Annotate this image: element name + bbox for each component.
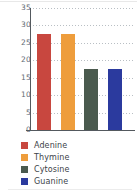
chart-figure: 35302520151050 AdenineThymineCytosineGua… — [0, 0, 137, 193]
legend-item-label: Cytosine — [34, 164, 70, 175]
gridline — [30, 25, 134, 26]
plot-area: 35302520151050 — [0, 0, 137, 134]
legend-item-label: Adenine — [34, 140, 67, 151]
bar — [61, 34, 75, 130]
legend-item-guanine[interactable]: Guanine — [21, 175, 133, 187]
x-axis-line — [26, 130, 135, 131]
bar — [108, 69, 122, 130]
legend-item-label: Guanine — [34, 176, 68, 187]
y-axis-tick-label: 25 — [1, 38, 31, 47]
y-axis-tick-label: 10 — [1, 90, 31, 99]
legend-item-cytosine[interactable]: Cytosine — [21, 163, 133, 175]
chart-legend: AdenineThymineCytosineGuanine — [21, 139, 133, 187]
legend-item-thymine[interactable]: Thymine — [21, 151, 133, 163]
y-axis-tick-label: 15 — [1, 73, 31, 82]
gridline-row: 30 — [0, 25, 137, 26]
legend-color-swatch — [21, 142, 28, 149]
bar — [84, 69, 98, 130]
legend-color-swatch — [21, 166, 28, 173]
bar — [37, 34, 51, 130]
y-axis-line — [30, 8, 31, 131]
gridline-row: 35 — [0, 8, 137, 9]
y-axis-tick-label: 35 — [1, 3, 31, 12]
legend-color-swatch — [21, 178, 28, 185]
figure-bottom-divider — [8, 189, 132, 190]
y-axis-tick-label: 30 — [1, 20, 31, 29]
legend-item-adenine[interactable]: Adenine — [21, 139, 133, 151]
y-axis-tick-label: 5 — [1, 108, 31, 117]
legend-item-label: Thymine — [34, 152, 69, 163]
y-axis-tick-label: 20 — [1, 55, 31, 64]
gridline — [30, 8, 134, 9]
legend-color-swatch — [21, 154, 28, 161]
